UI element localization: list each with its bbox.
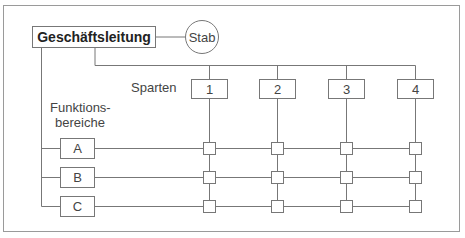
matrix-node [203, 171, 216, 184]
division-label: 1 [206, 82, 213, 97]
division-label: 2 [274, 82, 281, 97]
division-box-1: 1 [191, 79, 228, 99]
matrix-organization-diagram: Geschäftsleitung Stab Sparten Funktions-… [0, 0, 465, 238]
function-box-a: A [60, 138, 95, 159]
divisions-label: Sparten [131, 80, 177, 95]
division-box-2: 2 [259, 79, 296, 99]
matrix-node [271, 200, 284, 213]
matrix-node [271, 142, 284, 155]
leadership-box: Geschäftsleitung [32, 26, 156, 48]
function-label: A [73, 141, 82, 156]
matrix-node [409, 171, 422, 184]
functions-label-line1: Funktions- [50, 100, 111, 115]
matrix-node [340, 142, 353, 155]
division-label: 4 [412, 82, 419, 97]
division-box-4: 4 [397, 79, 434, 99]
matrix-node [203, 200, 216, 213]
matrix-node [409, 200, 422, 213]
function-label: C [73, 199, 82, 214]
functions-label-line2: bereiche [55, 115, 105, 130]
function-box-b: B [60, 167, 95, 188]
function-box-c: C [60, 196, 95, 217]
staff-label: Stab [189, 30, 216, 45]
matrix-node [271, 171, 284, 184]
division-label: 3 [343, 82, 350, 97]
function-label: B [73, 170, 82, 185]
matrix-node [340, 171, 353, 184]
leadership-label: Geschäftsleitung [37, 29, 151, 45]
staff-circle: Stab [185, 20, 219, 54]
matrix-node [203, 142, 216, 155]
matrix-node [340, 200, 353, 213]
division-box-3: 3 [328, 79, 365, 99]
matrix-node [409, 142, 422, 155]
